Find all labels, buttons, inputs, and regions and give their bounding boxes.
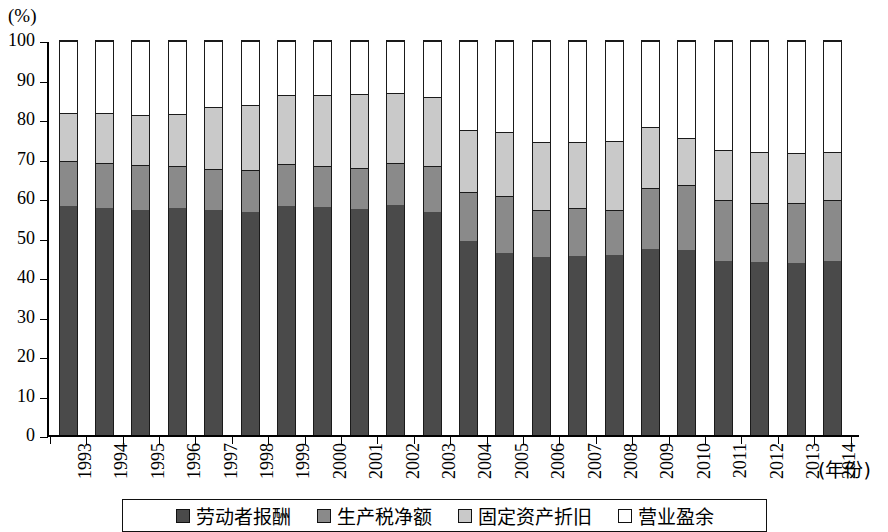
y-tick-label: 60 (0, 189, 35, 207)
bar-segment-2012-0 (751, 262, 768, 435)
bar-segment-1999-1 (278, 164, 295, 206)
bar-segment-2003-0 (424, 212, 441, 435)
y-tick: 80 (40, 121, 48, 122)
bar-segment-2013-2 (788, 153, 805, 203)
y-tick: 70 (40, 161, 48, 162)
legend-item-3: 营业盈余 (618, 502, 714, 529)
y-axis-unit-label: (%) (8, 6, 36, 25)
x-axis-label-1994: 1994 (112, 443, 130, 479)
x-axis-caption: (年份) (818, 455, 871, 482)
y-tick-label: 0 (0, 426, 35, 444)
bar-segment-2005-3 (496, 41, 513, 132)
legend-swatch-light (458, 509, 472, 523)
bar-1996 (168, 40, 187, 435)
x-axis-label-1995: 1995 (149, 443, 167, 479)
x-axis-label-2002: 2002 (404, 443, 422, 479)
bar-segment-2002-1 (387, 163, 404, 204)
bar-segment-1996-1 (169, 166, 186, 209)
bar-segment-2007-2 (569, 142, 586, 208)
bar-segment-2004-0 (460, 241, 477, 435)
legend-item-0: 劳动者报酬 (176, 502, 291, 529)
y-tick-label: 100 (0, 31, 35, 49)
bar-1993 (59, 40, 78, 435)
legend-label-1: 生产税净额 (337, 502, 432, 529)
y-tick-label: 20 (0, 347, 35, 365)
bar-segment-2013-3 (788, 41, 805, 153)
x-axis-label-1997: 1997 (222, 443, 240, 479)
bar-2002 (386, 40, 405, 435)
y-tick: 30 (40, 319, 48, 320)
bar-segment-2009-1 (642, 188, 659, 249)
bar-segment-2007-1 (569, 208, 586, 256)
bar-segment-2009-3 (642, 41, 659, 127)
x-axis-label-1993: 1993 (76, 443, 94, 479)
bar-segment-1995-2 (132, 115, 149, 165)
bar-2008 (605, 40, 624, 435)
chart-page: (%) 0102030405060708090100 1993199419951… (0, 0, 888, 532)
bar-segment-2004-1 (460, 192, 477, 241)
bar-segment-1999-0 (278, 206, 295, 435)
bar-segment-1995-0 (132, 210, 149, 435)
bar-2012 (750, 40, 769, 435)
bar-segment-2006-1 (533, 210, 550, 257)
x-axis-label-2003: 2003 (440, 443, 458, 479)
y-tick-label: 30 (0, 308, 35, 326)
y-tick-label: 50 (0, 229, 35, 247)
bar-segment-1994-0 (96, 208, 113, 435)
x-axis-label-2007: 2007 (586, 443, 604, 479)
bar-segment-1997-2 (205, 107, 222, 170)
bar-1994 (95, 40, 114, 435)
bar-segment-2000-1 (314, 166, 331, 207)
bar-2010 (677, 40, 696, 435)
legend-item-1: 生产税净额 (317, 502, 432, 529)
x-axis-label-2010: 2010 (695, 443, 713, 479)
bar-segment-1997-3 (205, 41, 222, 107)
bar-segment-1993-3 (60, 41, 77, 113)
bar-segment-2003-3 (424, 41, 441, 97)
legend-swatch-white (618, 509, 632, 523)
bar-segment-2002-3 (387, 41, 404, 93)
bar-segment-2001-3 (351, 41, 368, 94)
bar-segment-2006-3 (533, 41, 550, 142)
bar-segment-1999-3 (278, 41, 295, 95)
y-tick: 40 (40, 279, 48, 280)
bar-2005 (495, 40, 514, 435)
bar-segment-1997-1 (205, 169, 222, 210)
bar-segment-2006-2 (533, 142, 550, 210)
bar-segment-2014-2 (824, 152, 841, 200)
bar-1995 (131, 40, 150, 435)
bar-segment-2014-0 (824, 261, 841, 435)
bar-segment-1999-2 (278, 95, 295, 164)
bar-segment-2001-1 (351, 168, 368, 209)
x-tick (50, 437, 51, 444)
bar-segment-1997-0 (205, 210, 222, 435)
x-axis-label-1998: 1998 (258, 443, 276, 479)
bar-segment-2001-2 (351, 94, 368, 168)
bar-2004 (459, 40, 478, 435)
bar-segment-2000-2 (314, 95, 331, 166)
bar-segment-1995-3 (132, 41, 149, 115)
bar-segment-2014-3 (824, 41, 841, 152)
legend-label-2: 固定资产折旧 (478, 502, 592, 529)
bar-segment-2011-3 (715, 41, 732, 150)
y-tick: 50 (40, 240, 48, 241)
x-axis-label-2012: 2012 (768, 443, 786, 479)
x-axis-label-1999: 1999 (294, 443, 312, 479)
bar-segment-1998-1 (242, 170, 259, 212)
bar-segment-1993-1 (60, 161, 77, 206)
bar-segment-2011-2 (715, 150, 732, 200)
x-axis-label-2005: 2005 (513, 443, 531, 479)
bar-segment-2005-1 (496, 196, 513, 253)
y-tick: 100 (40, 42, 48, 43)
plot-area: 0102030405060708090100 (47, 42, 859, 437)
bar-segment-2008-2 (606, 141, 623, 210)
bar-segment-2010-0 (678, 250, 695, 435)
x-axis-label-2008: 2008 (622, 443, 640, 479)
bar-1997 (204, 40, 223, 435)
bar-segment-2008-1 (606, 210, 623, 255)
bar-2013 (787, 40, 806, 435)
bar-segment-1994-1 (96, 163, 113, 208)
y-tick: 60 (40, 200, 48, 201)
bar-segment-2014-1 (824, 200, 841, 261)
bar-1998 (241, 40, 260, 435)
